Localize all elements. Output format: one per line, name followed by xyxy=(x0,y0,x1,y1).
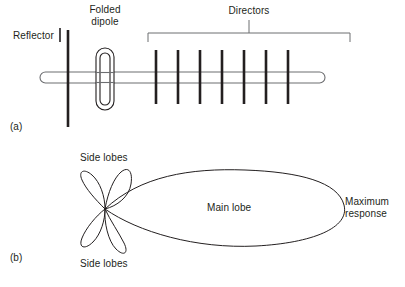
side-lobes-top-label: Side lobes xyxy=(80,152,128,164)
panel-a-antenna xyxy=(40,20,350,127)
panel-tag-a: (a) xyxy=(10,121,22,132)
directors-label: Directors xyxy=(219,5,279,17)
maximum-response-label: Maximumresponse xyxy=(345,196,403,219)
side-lobe-upper-right xyxy=(105,169,131,209)
diagram-canvas xyxy=(0,0,405,287)
folded-dipole-label-line1: Folded xyxy=(89,4,120,15)
side-lobes-bottom-label: Side lobes xyxy=(80,258,128,270)
folded-dipole-inner xyxy=(100,53,110,105)
folded-dipole-label-line2: dipole xyxy=(91,16,118,27)
side-lobe-upper-left xyxy=(81,171,105,209)
main-lobe-label: Main lobe xyxy=(207,202,251,214)
figure-root: Reflector Foldeddipole Directors (a) Sid… xyxy=(0,0,405,287)
reflector-label: Reflector xyxy=(13,30,54,42)
panel-tag-b: (b) xyxy=(10,252,22,263)
antenna-boom xyxy=(40,72,325,83)
directors-bracket xyxy=(148,33,350,42)
side-lobe-lower-left xyxy=(81,209,105,247)
maximum-response-label-line2: response xyxy=(345,208,387,219)
maximum-response-label-line1: Maximum xyxy=(345,196,389,207)
folded-dipole-label: Foldeddipole xyxy=(77,4,133,27)
